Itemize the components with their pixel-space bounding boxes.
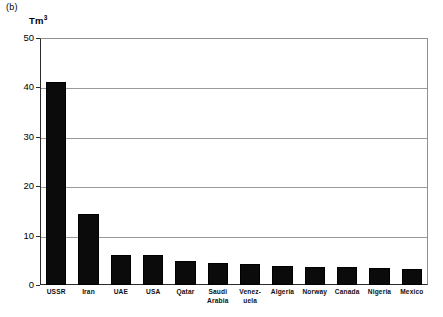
bar <box>208 263 228 285</box>
x-axis-label-line: Mexico <box>396 288 428 297</box>
x-axis-label: Venez-uela <box>234 288 266 305</box>
bar <box>143 255 163 285</box>
bar <box>305 267 325 285</box>
x-axis-label: Mexico <box>396 288 428 297</box>
bar <box>337 267 357 285</box>
x-axis-label: Canada <box>331 288 363 297</box>
x-axis-label-line: Qatar <box>169 288 201 297</box>
x-axis-label-line: Arabia <box>202 297 234 306</box>
x-axis-label-line: UAE <box>105 288 137 297</box>
x-axis-label: Nigeria <box>363 288 395 297</box>
bar <box>46 82 66 285</box>
x-axis-label: Algeria <box>266 288 298 297</box>
bar-series <box>40 38 428 285</box>
y-axis-tick-label: 10 <box>0 231 34 241</box>
bar <box>402 269 422 285</box>
x-axis-label-line: Venez- <box>234 288 266 297</box>
y-axis-tick-label: 50 <box>0 33 34 43</box>
x-axis-labels: USSRIranUAEUSAQatarSaudiArabiaVenez-uela… <box>40 288 428 316</box>
x-axis-label-line: Norway <box>299 288 331 297</box>
x-axis-label-line: Canada <box>331 288 363 297</box>
panel-label: (b) <box>6 2 18 12</box>
y-axis-tick-label: 30 <box>0 132 34 142</box>
y-axis-tick-label: 40 <box>0 82 34 92</box>
bar <box>240 264 260 285</box>
x-axis-label-line: Saudi <box>202 288 234 297</box>
bar <box>175 261 195 285</box>
x-axis-label-line: uela <box>234 297 266 306</box>
bar <box>111 255 131 285</box>
y-axis-unit-text: Tm <box>29 15 44 26</box>
bar <box>369 268 389 285</box>
x-axis-label-line: Algeria <box>266 288 298 297</box>
x-axis-label: Iran <box>72 288 104 297</box>
x-axis-label-line: Nigeria <box>363 288 395 297</box>
x-axis-label: SaudiArabia <box>202 288 234 305</box>
x-axis-label: Norway <box>299 288 331 297</box>
bar <box>78 214 98 285</box>
y-axis-unit-exponent: 3 <box>44 14 48 21</box>
x-axis-label: USA <box>137 288 169 297</box>
y-axis-tick-label: 0 <box>0 280 34 290</box>
y-axis-unit-label: Tm3 <box>29 14 47 26</box>
x-axis-label-line: Iran <box>72 288 104 297</box>
x-axis-label: Qatar <box>169 288 201 297</box>
x-axis-label: USSR <box>40 288 72 297</box>
y-axis-tick-label: 20 <box>0 181 34 191</box>
figure-root: (b) Tm3 01020304050 USSRIranUAEUSAQatarS… <box>0 0 443 317</box>
y-axis-tick-mark <box>36 285 40 286</box>
bar <box>272 266 292 285</box>
x-axis-label-line: USA <box>137 288 169 297</box>
x-axis-label: UAE <box>105 288 137 297</box>
x-axis-label-line: USSR <box>40 288 72 297</box>
